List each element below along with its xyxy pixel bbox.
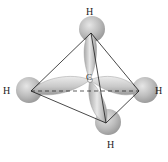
hydrogen-label-bottom: H xyxy=(107,140,114,150)
methane-tetrahedron-diagram xyxy=(0,0,168,162)
hydrogen-label-right: H xyxy=(155,86,162,96)
hydrogen-label-left: H xyxy=(3,86,10,96)
carbon-label: C xyxy=(86,72,92,82)
hydrogen-label-top: H xyxy=(86,7,93,17)
orbital-lobe-left xyxy=(31,76,90,94)
